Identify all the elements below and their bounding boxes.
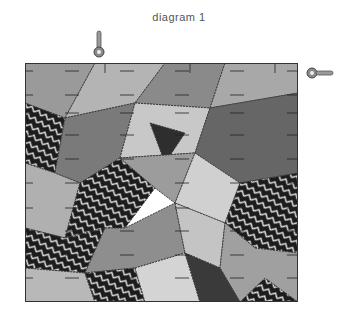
crazy-quilt-diagram — [25, 63, 298, 302]
diagram-title: diagram 1 — [0, 11, 358, 23]
pin-right-icon — [306, 66, 334, 84]
quilt-piece — [25, 268, 95, 302]
pin-top-icon — [92, 30, 106, 62]
quilt-piece — [85, 268, 145, 302]
